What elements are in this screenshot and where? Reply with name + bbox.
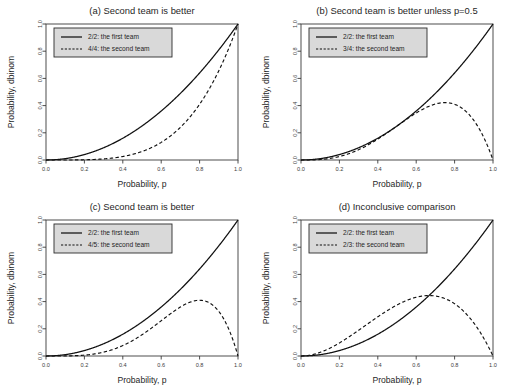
y-tick-label: 0.0 <box>292 352 298 360</box>
x-tick-label: 0.8 <box>196 166 204 172</box>
x-tick-label: 0.0 <box>42 362 50 368</box>
x-tick-label: 0.4 <box>374 362 382 368</box>
legend-box <box>309 224 427 253</box>
y-tick-label: 1.0 <box>37 216 43 224</box>
x-axis: 0.00.20.40.60.81.0 <box>42 160 242 172</box>
panel-d-plot: (d) Inconclusive comparison0.00.20.40.60… <box>255 196 510 391</box>
series-curve-second-team <box>301 103 493 160</box>
x-tick-label: 1.0 <box>489 362 497 368</box>
legend-box <box>54 28 172 57</box>
y-tick-label: 0.4 <box>37 102 43 110</box>
y-tick-label: 0.4 <box>37 298 43 306</box>
panel-c-plot: (c) Second team is better0.00.20.40.60.8… <box>0 196 255 391</box>
x-axis-label: Probability, p <box>117 375 166 385</box>
y-axis: 0.00.20.40.60.81.0 <box>292 216 301 360</box>
panel-b-plot: (b) Second team is better unless p=0.50.… <box>255 0 510 195</box>
y-tick-label: 0.4 <box>292 102 298 110</box>
y-tick-label: 1.0 <box>292 216 298 224</box>
series-curve-second-team <box>301 296 493 356</box>
panel-a: (a) Second team is better0.00.20.40.60.8… <box>0 0 255 195</box>
x-tick-label: 0.6 <box>412 166 420 172</box>
legend-label-first-team: 2/2: the first team <box>88 229 139 236</box>
panel-grid: (a) Second team is better0.00.20.40.60.8… <box>0 0 510 391</box>
y-tick-label: 0.0 <box>37 156 43 164</box>
legend-label-second-team: 4/4: the second team <box>88 45 150 52</box>
y-tick-label: 0.4 <box>292 298 298 306</box>
x-axis: 0.00.20.40.60.81.0 <box>297 160 497 172</box>
x-tick-label: 0.8 <box>451 166 459 172</box>
x-tick-label: 1.0 <box>489 166 497 172</box>
x-tick-label: 0.0 <box>42 166 50 172</box>
y-axis-label: Probability, dbinom <box>261 252 271 324</box>
y-tick-label: 0.8 <box>292 47 298 55</box>
x-axis-label: Probability, p <box>372 179 421 189</box>
x-axis-label: Probability, p <box>372 375 421 385</box>
y-tick-label: 0.8 <box>37 47 43 55</box>
legend-box <box>309 28 427 57</box>
legend-label-second-team: 4/5: the second team <box>88 241 150 248</box>
x-tick-label: 0.2 <box>81 362 89 368</box>
panel-title: (d) Inconclusive comparison <box>339 201 456 212</box>
y-axis: 0.00.20.40.60.81.0 <box>292 20 301 164</box>
x-tick-label: 0.6 <box>157 362 165 368</box>
legend: 2/2: the first team4/5: the second team <box>54 224 172 253</box>
x-tick-label: 0.6 <box>412 362 420 368</box>
legend-label-second-team: 3/4: the second team <box>343 45 405 52</box>
legend-label-first-team: 2/2: the first team <box>343 229 394 236</box>
panel-title: (a) Second team is better <box>89 5 194 16</box>
legend-label-first-team: 2/2: the first team <box>343 33 394 40</box>
x-tick-label: 0.4 <box>374 166 382 172</box>
y-tick-label: 1.0 <box>292 20 298 28</box>
legend: 2/2: the first team4/4: the second team <box>54 28 172 57</box>
legend: 2/2: the first team2/3: the second team <box>309 224 427 253</box>
x-tick-label: 0.6 <box>157 166 165 172</box>
x-axis: 0.00.20.40.60.81.0 <box>297 356 497 368</box>
x-tick-label: 0.8 <box>451 362 459 368</box>
y-tick-label: 0.2 <box>37 129 43 137</box>
x-tick-label: 0.2 <box>336 166 344 172</box>
y-tick-label: 0.6 <box>292 75 298 83</box>
x-axis: 0.00.20.40.60.81.0 <box>42 356 242 368</box>
y-tick-label: 0.2 <box>37 325 43 333</box>
legend-label-second-team: 2/3: the second team <box>343 241 405 248</box>
y-tick-label: 0.8 <box>37 243 43 251</box>
x-tick-label: 0.0 <box>297 362 305 368</box>
x-tick-label: 1.0 <box>234 166 242 172</box>
panel-a-plot: (a) Second team is better0.00.20.40.60.8… <box>0 0 255 195</box>
y-tick-label: 0.0 <box>37 352 43 360</box>
x-tick-label: 0.8 <box>196 362 204 368</box>
x-tick-label: 0.2 <box>81 166 89 172</box>
y-tick-label: 0.6 <box>37 75 43 83</box>
x-axis-label: Probability, p <box>117 179 166 189</box>
legend-label-first-team: 2/2: the first team <box>88 33 139 40</box>
y-tick-label: 0.2 <box>292 325 298 333</box>
y-tick-label: 0.2 <box>292 129 298 137</box>
y-axis: 0.00.20.40.60.81.0 <box>37 216 46 360</box>
panel-c: (c) Second team is better0.00.20.40.60.8… <box>0 196 255 391</box>
y-axis: 0.00.20.40.60.81.0 <box>37 20 46 164</box>
y-tick-label: 0.8 <box>292 243 298 251</box>
panel-title: (b) Second team is better unless p=0.5 <box>316 5 477 16</box>
figure-panel-grid: (a) Second team is better0.00.20.40.60.8… <box>0 0 510 391</box>
y-tick-label: 0.6 <box>292 271 298 279</box>
legend: 2/2: the first team3/4: the second team <box>309 28 427 57</box>
panel-title: (c) Second team is better <box>90 201 195 212</box>
y-axis-label: Probability, dbinom <box>6 252 16 324</box>
x-tick-label: 0.2 <box>336 362 344 368</box>
y-tick-label: 0.0 <box>292 156 298 164</box>
x-tick-label: 1.0 <box>234 362 242 368</box>
series-curve-second-team <box>46 300 238 356</box>
legend-box <box>54 224 172 253</box>
panel-b: (b) Second team is better unless p=0.50.… <box>255 0 510 195</box>
x-tick-label: 0.4 <box>119 362 127 368</box>
y-axis-label: Probability, dbinom <box>261 56 271 128</box>
x-tick-label: 0.0 <box>297 166 305 172</box>
y-tick-label: 1.0 <box>37 20 43 28</box>
x-tick-label: 0.4 <box>119 166 127 172</box>
y-axis-label: Probability, dbinom <box>6 56 16 128</box>
y-tick-label: 0.6 <box>37 271 43 279</box>
panel-d: (d) Inconclusive comparison0.00.20.40.60… <box>255 196 510 391</box>
